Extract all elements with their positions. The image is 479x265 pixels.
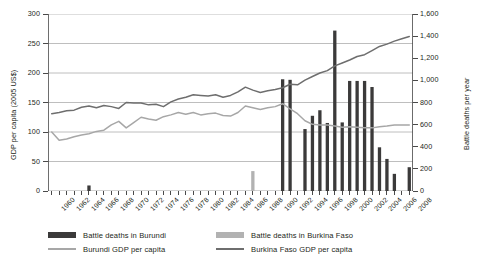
y-axis-right-tick [413,124,418,125]
x-axis-tick-label: 1998 [342,196,358,212]
y-axis-right-tick-label: 800 [420,99,432,106]
x-axis-tick-label: 1980 [208,196,224,212]
y-axis-right-tick [413,58,418,59]
left-axis-title: GDP per capita (2005 US$) [9,70,18,160]
x-axis-tick [349,191,350,195]
x-axis-tick [290,191,291,195]
y-axis-right-tick-label: 1,400 [420,32,439,39]
x-axis-tick-label: 1962 [74,196,90,212]
legend-column-burkina-faso: Battle deaths in Burkina Faso Burkina Fa… [216,228,416,256]
x-axis-tick [297,191,298,195]
x-axis-tick-label: 1990 [283,196,299,212]
y-axis-left-tick-label: 250 [10,40,40,47]
x-axis-tick-label: 1992 [298,196,314,212]
x-axis-tick-label: 1994 [313,196,329,212]
y-axis-right-tick [413,168,418,169]
x-axis-tick [59,191,60,195]
x-axis-tick [215,191,216,195]
x-axis-tick [386,191,387,195]
x-axis-tick-label: 1964 [89,196,105,212]
y-axis-left-tick-label: 200 [10,69,40,76]
x-axis-tick-label: 1970 [134,196,150,212]
x-axis-tick [260,191,261,195]
legend-swatch-line-burkina-faso [216,248,244,251]
x-axis-tick [170,191,171,195]
x-axis-tick-label: 1988 [268,196,284,212]
x-axis-tick [51,191,52,195]
y-axis-right-tick [413,146,418,147]
x-axis-tick-label: 2008 [417,196,433,212]
x-axis-tick-label: 2002 [372,196,388,212]
x-axis-tick-label: 1972 [149,196,165,212]
x-axis-tick [342,191,343,195]
x-axis-tick [178,191,179,195]
legend-label: Battle deaths in Burundi [83,231,166,240]
x-axis-tick-label: 1984 [238,196,254,212]
y-axis-left-tick-label: 100 [10,128,40,135]
x-axis-tick [148,191,149,195]
y-axis-left-tick-label: 300 [10,10,40,17]
x-axis-tick [96,191,97,195]
x-axis-tick [327,191,328,195]
legend-item: Battle deaths in Burkina Faso [216,228,416,242]
x-axis-tick [133,191,134,195]
x-axis-tick [126,191,127,195]
x-axis-tick [81,191,82,195]
x-axis-tick [357,191,358,195]
x-axis-tick [379,191,380,195]
x-axis-tick [223,191,224,195]
x-axis-tick [237,191,238,195]
y-axis-right-tick [413,102,418,103]
x-axis-tick [401,191,402,195]
x-axis-tick [193,191,194,195]
x-axis-tick-label: 1976 [179,196,195,212]
legend-swatch-bar-burkina-faso [216,232,244,238]
x-axis-tick [74,191,75,195]
y-axis-right-tick-label: 0 [420,187,424,194]
x-axis-tick [118,191,119,195]
x-axis-tick [304,191,305,195]
x-axis-tick [156,191,157,195]
y-axis-right-tick-label: 1,600 [420,10,439,17]
x-axis-tick-label: 1968 [119,196,135,212]
x-axis-tick [208,191,209,195]
x-axis-tick-label: 1996 [328,196,344,212]
x-axis-tick [319,191,320,195]
y-axis-right-tick [413,191,418,192]
x-axis-tick [267,191,268,195]
y-axis-right-tick [413,14,418,15]
x-axis-tick [245,191,246,195]
x-axis-tick [103,191,104,195]
x-axis-tick [334,191,335,195]
x-axis-tick [364,191,365,195]
x-axis-tick [252,191,253,195]
legend-item: Burkina Faso GDP per capita [216,242,416,256]
x-axis-tick-label: 1966 [104,196,120,212]
right-axis-title: Battle deaths per year [462,77,471,150]
x-axis-tick-label: 1974 [164,196,180,212]
y-axis-left-tick-label: 150 [10,99,40,106]
x-axis-tick-label: 1986 [253,196,269,212]
y-axis-left-tick-label: 50 [10,158,40,165]
x-axis-tick [409,191,410,195]
chart-canvas [48,14,413,191]
x-axis-tick [66,191,67,195]
legend-label: Burundi GDP per capita [83,245,165,254]
y-axis-right-tick [413,80,418,81]
y-axis-right-tick [413,36,418,37]
x-axis-tick-label: 1982 [223,196,239,212]
x-axis-tick-label: 2000 [357,196,373,212]
x-axis-tick [163,191,164,195]
x-axis-tick [200,191,201,195]
x-axis-tick [275,191,276,195]
y-axis-left-tick-label: 0 [10,187,40,194]
x-axis-tick-label: 2006 [402,196,418,212]
y-axis-right-tick-label: 200 [420,165,432,172]
x-axis-tick-label: 1960 [59,196,75,212]
y-axis-right-tick-label: 1,000 [420,76,439,83]
y-axis-right-tick-label: 600 [420,121,432,128]
x-axis-tick [88,191,89,195]
x-axis-tick [312,191,313,195]
plot-area [48,14,413,191]
x-axis-tick [394,191,395,195]
